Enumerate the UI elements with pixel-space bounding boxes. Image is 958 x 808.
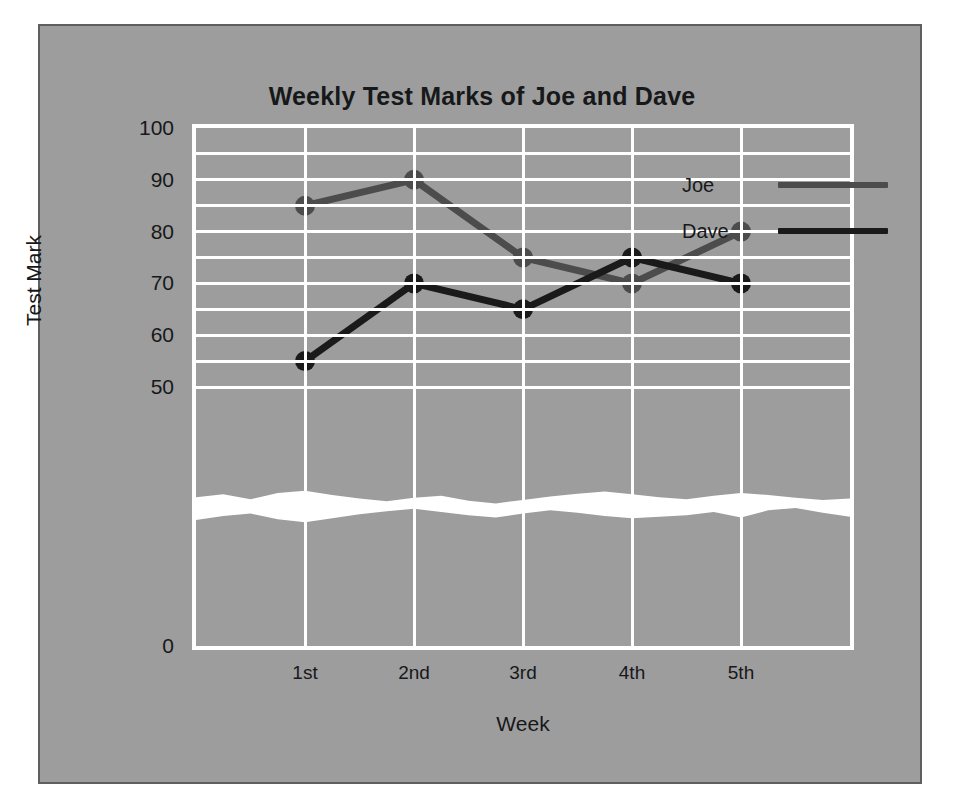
legend-item: Dave <box>682 208 914 254</box>
gridline-vertical <box>631 128 634 646</box>
y-axis-tick-label: 0 <box>54 634 174 658</box>
legend-label: Joe <box>682 174 778 197</box>
x-axis-tick-label: 2nd <box>374 662 454 684</box>
chart-legend: Joe Dave <box>682 162 914 254</box>
x-axis-title: Week <box>192 712 854 736</box>
legend-swatch-dave <box>778 228 888 234</box>
gridline-vertical <box>522 128 525 646</box>
y-axis-tick-label: 50 <box>54 375 174 399</box>
x-axis-tick-label: 1st <box>265 662 345 684</box>
legend-swatch-joe <box>778 182 888 188</box>
gridline-vertical <box>304 128 307 646</box>
x-axis-tick-label: 4th <box>592 662 672 684</box>
y-axis-tick-label: 100 <box>54 116 174 140</box>
y-axis-tick-label: 70 <box>54 271 174 295</box>
chart-title: Weekly Test Marks of Joe and Dave <box>40 82 924 111</box>
legend-item: Joe <box>682 162 914 208</box>
legend-label: Dave <box>682 220 778 243</box>
chart-panel: Weekly Test Marks of Joe and Dave Test M… <box>38 24 922 784</box>
x-axis-tick-label: 3rd <box>483 662 563 684</box>
gridline-vertical <box>413 128 416 646</box>
y-axis-tick-label: 90 <box>54 168 174 192</box>
x-axis-tick-label: 5th <box>701 662 781 684</box>
y-axis-title: Test Mark <box>22 235 46 326</box>
y-axis-tick-label: 80 <box>54 220 174 244</box>
chart-page: Weekly Test Marks of Joe and Dave Test M… <box>0 0 958 808</box>
y-axis-tick-label: 60 <box>54 323 174 347</box>
